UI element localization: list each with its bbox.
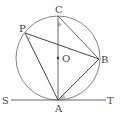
segment-ab <box>58 59 99 100</box>
geometry-diagram: C P O B A S T <box>0 0 121 117</box>
label-s: S <box>2 95 9 106</box>
angle-mark-c <box>58 22 62 27</box>
center-dot <box>57 57 59 59</box>
label-a: A <box>54 103 63 114</box>
angle-mark-p <box>28 35 31 39</box>
label-b: B <box>101 54 108 65</box>
label-p: P <box>19 23 26 34</box>
label-t: T <box>107 95 114 106</box>
diagram-canvas: C P O B A S T <box>0 0 121 117</box>
label-c: C <box>55 4 63 15</box>
label-o: O <box>62 53 70 64</box>
